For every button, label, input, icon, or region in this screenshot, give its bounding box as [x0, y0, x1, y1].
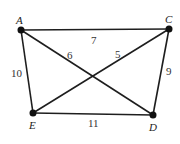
weighted-graph-diagram: A C E D 7 6 5 10 9 11 — [0, 0, 180, 144]
vertex-e — [30, 110, 37, 117]
edge-a-e — [21, 30, 33, 113]
edge-a-d — [21, 30, 153, 115]
weight-label-c-d: 9 — [166, 65, 172, 77]
weight-label-a-e: 10 — [11, 67, 23, 79]
edge-e-d — [33, 113, 153, 115]
vertex-label-d: D — [148, 121, 157, 133]
vertex-c — [166, 26, 173, 33]
weight-label-a-c: 7 — [91, 34, 97, 46]
vertex-label-e: E — [28, 119, 36, 131]
vertex-label-c: C — [165, 13, 173, 25]
weight-label-c-e: 5 — [115, 48, 121, 60]
vertex-d — [150, 112, 157, 119]
vertex-label-a: A — [15, 14, 23, 26]
edge-a-c — [21, 29, 169, 30]
edge-c-e — [33, 29, 169, 113]
vertex-a — [18, 27, 25, 34]
weight-label-a-d: 6 — [67, 49, 73, 61]
weight-label-e-d: 11 — [88, 117, 99, 129]
